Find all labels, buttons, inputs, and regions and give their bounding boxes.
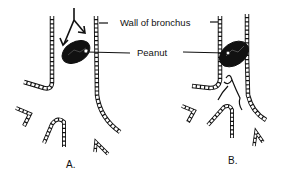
panel-a-drawing (16, 8, 130, 154)
wall-of-bronchus-label: Wall of bronchus (120, 18, 190, 28)
bronchiole-branches-b (182, 106, 263, 146)
airflow-arrows-a (60, 8, 85, 45)
peanut-label: Peanut (137, 48, 167, 58)
panel-b-drawing (182, 14, 266, 146)
bronchus-diagram: Wall of bronchus Peanut A. B. (0, 0, 285, 180)
bronchiole-branches-a (16, 108, 108, 154)
panel-b-caption: B. (228, 156, 237, 166)
panel-a-caption: A. (66, 160, 75, 170)
bronchus-wall-left-a (24, 16, 52, 88)
bronchus-wall-right-a (96, 16, 120, 132)
bronchus-wall-right-b (247, 14, 266, 120)
peanut-pointer-line-a (87, 52, 130, 53)
